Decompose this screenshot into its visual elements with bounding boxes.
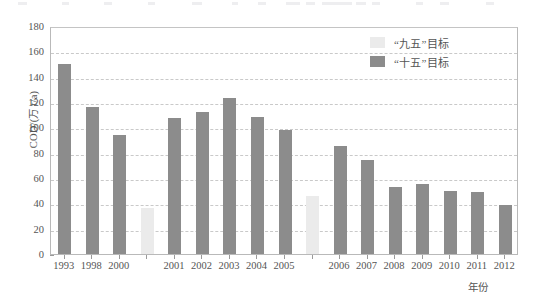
x-axis-tick-mark: [367, 255, 368, 259]
y-axis-tick-label: 60: [4, 174, 44, 184]
gridline: [51, 104, 517, 105]
bar: [499, 205, 512, 254]
y-axis-tick-label: 140: [4, 73, 44, 83]
bar: [334, 146, 347, 254]
x-axis-tick-mark: [339, 255, 340, 259]
bar: [223, 98, 236, 254]
x-axis-tick-mark: [229, 255, 230, 259]
x-axis-tick-mark: [449, 255, 450, 259]
bar: [113, 135, 126, 254]
bar: [416, 184, 429, 254]
x-axis-tick-mark: [201, 255, 202, 259]
legend-item-tenth-five-year: “十五”目标: [370, 52, 500, 71]
x-axis-tick-label: 2012: [494, 260, 515, 271]
bar: [141, 208, 154, 254]
x-axis-tick-label: 1993: [53, 260, 74, 271]
bar: [86, 107, 99, 254]
x-axis-tick-label: 1998: [81, 260, 102, 271]
legend: “九五”目标 “十五”目标: [370, 33, 500, 71]
top-cropped-text-artifact: [0, 0, 536, 7]
x-axis-tick-mark: [394, 255, 395, 259]
x-axis-tick-label: 2003: [218, 260, 239, 271]
legend-label-tenth-five-year: “十五”目标: [394, 54, 449, 70]
bar: [196, 112, 209, 254]
x-axis-title: 年份: [468, 279, 488, 294]
y-axis-tick-label: 160: [4, 47, 44, 57]
bar: [444, 191, 457, 254]
y-axis-tick-label: 100: [4, 123, 44, 133]
x-axis-tick-label: 2005: [274, 260, 295, 271]
x-axis-tick-mark: [91, 255, 92, 259]
bar: [471, 192, 484, 254]
x-axis-tick-mark: [256, 255, 257, 259]
x-axis-tick-label: 2011: [466, 260, 487, 271]
x-axis-tick-label: 2000: [108, 260, 129, 271]
x-axis-tick-label: 2006: [329, 260, 350, 271]
x-axis-tick-label: 2001: [163, 260, 184, 271]
legend-swatch-tenth-five-year: [370, 56, 385, 67]
bar: [361, 160, 374, 254]
x-axis-tick-mark: [64, 255, 65, 259]
bar: [389, 187, 402, 254]
bar: [58, 64, 71, 254]
x-axis-tick-mark: [146, 255, 147, 259]
x-axis-tick-label: 2008: [384, 260, 405, 271]
y-axis-tick-label: 20: [4, 225, 44, 235]
bar: [306, 196, 319, 254]
legend-item-ninth-five-year: “九五”目标: [370, 33, 500, 52]
x-axis-tick-mark: [174, 255, 175, 259]
legend-swatch-ninth-five-year: [370, 37, 385, 48]
y-axis-tick-mark: [50, 255, 54, 256]
bar: [251, 117, 264, 254]
x-axis-tick-mark: [477, 255, 478, 259]
x-axis-tick-mark: [504, 255, 505, 259]
y-axis-tick-label: 40: [4, 199, 44, 209]
y-axis-tick-label: 120: [4, 98, 44, 108]
x-axis-tick-label: 2007: [356, 260, 377, 271]
legend-label-ninth-five-year: “九五”目标: [394, 35, 449, 51]
x-axis-tick-mark: [284, 255, 285, 259]
y-axis-tick-label: 0: [4, 250, 44, 260]
x-axis-tick-mark: [422, 255, 423, 259]
x-axis-tick-mark: [312, 255, 313, 259]
bar: [168, 118, 181, 254]
cod-emissions-bar-chart: COD/(万 t/a) 020406080100120140160180 199…: [0, 0, 536, 303]
x-axis-tick-mark: [119, 255, 120, 259]
bar: [279, 130, 292, 254]
x-axis-tick-label: 2010: [439, 260, 460, 271]
x-axis-tick-label: 2004: [246, 260, 267, 271]
y-axis-tick-label: 80: [4, 149, 44, 159]
y-axis-tick-label: 180: [4, 22, 44, 32]
x-axis-tick-label: 2009: [411, 260, 432, 271]
x-axis-tick-label: 2002: [191, 260, 212, 271]
gridline: [51, 79, 517, 80]
